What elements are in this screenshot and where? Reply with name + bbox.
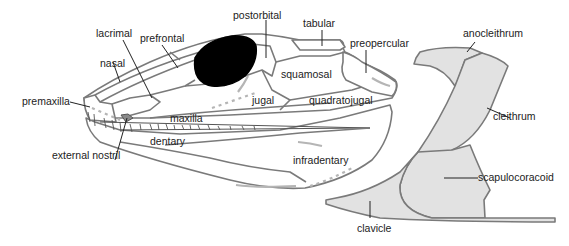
skull xyxy=(84,34,397,188)
label-maxilla: maxilla xyxy=(170,113,203,124)
label-anocleithrum: anocleithrum xyxy=(463,28,523,39)
label-external-nostril: external nostril xyxy=(52,150,120,161)
label-tabular: tabular xyxy=(303,18,335,29)
label-quadratojugal: quadratojugal xyxy=(309,95,373,106)
label-infradentary: infradentary xyxy=(293,155,348,166)
label-nasal: nasal xyxy=(100,58,125,69)
label-lacrimal: lacrimal xyxy=(96,28,132,39)
label-premaxilla: premaxilla xyxy=(22,96,70,107)
label-jugal: jugal xyxy=(252,95,274,106)
label-dentary: dentary xyxy=(150,136,185,147)
label-squamosal: squamosal xyxy=(281,69,332,80)
label-scapulocoracoid: scapulocoracoid xyxy=(478,172,554,183)
label-prefrontal: prefrontal xyxy=(140,33,184,44)
label-cleithrum: cleithrum xyxy=(493,111,536,122)
label-postorbital: postorbital xyxy=(233,10,281,21)
label-preopercular: preopercular xyxy=(350,38,409,49)
label-clavicle: clavicle xyxy=(357,223,391,234)
tabular-bone xyxy=(292,40,345,50)
